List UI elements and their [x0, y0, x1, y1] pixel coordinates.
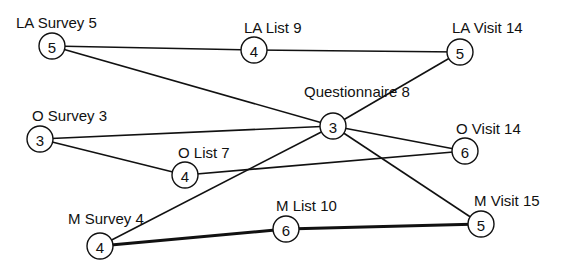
node-label: O List 7 [178, 144, 230, 161]
node-value: 5 [48, 39, 56, 56]
edge-la-survey-to-la-list [52, 46, 254, 50]
edge-o-survey-to-questionnaire [40, 126, 333, 139]
node-label: M Survey 4 [68, 210, 144, 227]
edge-o-survey-to-o-list [40, 139, 185, 175]
node-value: 5 [456, 45, 464, 62]
node-m-list: 6M List 10 [273, 197, 337, 242]
node-value: 5 [477, 217, 485, 234]
node-la-survey: 5LA Survey 5 [16, 14, 97, 59]
node-o-list: 4O List 7 [172, 144, 230, 188]
node-label: Questionnaire 8 [304, 83, 410, 100]
node-value: 6 [461, 144, 469, 161]
node-value: 3 [329, 119, 337, 136]
node-label: O Survey 3 [32, 107, 107, 124]
node-label: LA Visit 14 [452, 19, 523, 36]
node-value: 4 [96, 239, 104, 256]
node-o-visit: 6O Visit 14 [452, 120, 521, 164]
node-value: 3 [36, 132, 44, 149]
node-value: 4 [181, 168, 189, 185]
edge-la-list-to-la-visit [254, 50, 460, 52]
node-label: M Visit 15 [474, 192, 540, 209]
node-label: M List 10 [276, 197, 337, 214]
node-label: O Visit 14 [456, 120, 521, 137]
node-label: LA Survey 5 [16, 14, 97, 31]
node-label: LA List 9 [244, 19, 302, 36]
node-m-visit: 5M Visit 15 [468, 192, 540, 237]
node-la-list: 4LA List 9 [241, 19, 302, 63]
network-diagram: 5LA Survey 54LA List 95LA Visit 143Quest… [0, 0, 566, 278]
edge-m-list-to-m-visit [286, 224, 481, 229]
node-m-survey: 4M Survey 4 [68, 210, 144, 259]
node-value: 6 [282, 222, 290, 239]
node-la-visit: 5LA Visit 14 [447, 19, 523, 65]
node-value: 4 [250, 43, 258, 60]
